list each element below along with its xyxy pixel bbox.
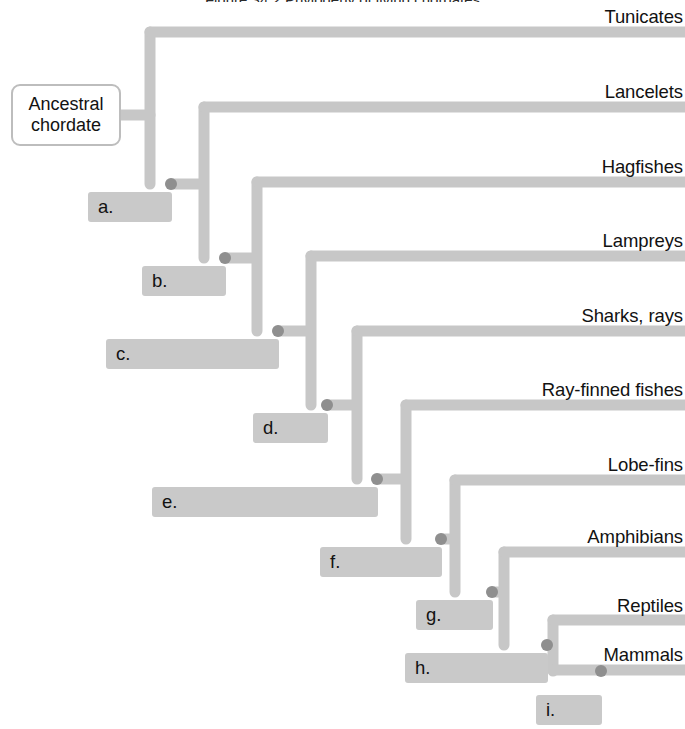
node-dot-i xyxy=(595,665,607,677)
tip-label-hagfishes: Hagfishes xyxy=(602,158,683,177)
tip-label-tunicates: Tunicates xyxy=(604,8,683,27)
tip-label-amphibians: Amphibians xyxy=(587,528,683,547)
node-callout-label-h: h. xyxy=(415,659,430,678)
node-callout-a[interactable]: a. xyxy=(88,192,172,222)
node-callout-label-e: e. xyxy=(162,493,177,512)
node-callout-g[interactable]: g. xyxy=(416,600,493,630)
node-dot-a xyxy=(165,178,177,190)
node-callout-e[interactable]: e. xyxy=(152,487,378,517)
node-callout-label-b: b. xyxy=(152,272,167,291)
node-callout-d[interactable]: d. xyxy=(253,413,328,443)
node-dot-c xyxy=(272,325,284,337)
branch-spine-e xyxy=(377,405,406,539)
ancestral-chordate-line2: chordate xyxy=(31,115,101,136)
tip-label-ray-finned-fishes: Ray-finned fishes xyxy=(542,381,683,400)
tip-label-reptiles: Reptiles xyxy=(617,597,683,616)
ancestral-chordate-line1: Ancestral xyxy=(28,94,103,115)
node-dot-b xyxy=(219,252,231,264)
node-callout-label-a: a. xyxy=(98,198,113,217)
node-callout-i[interactable]: i. xyxy=(536,695,602,725)
tip-label-sharks-rays: Sharks, rays xyxy=(581,307,683,326)
tip-label-mammals: Mammals xyxy=(604,646,683,665)
node-callout-label-f: f. xyxy=(330,553,340,572)
node-callout-label-g: g. xyxy=(426,606,441,625)
node-callout-label-i: i. xyxy=(546,701,555,720)
node-callout-f[interactable]: f. xyxy=(320,547,442,577)
tip-label-lampreys: Lampreys xyxy=(603,232,683,251)
tip-label-lobe-fins: Lobe-fins xyxy=(608,456,683,475)
ancestral-chordate-box: Ancestral chordate xyxy=(11,84,121,146)
tip-label-lancelets: Lancelets xyxy=(605,83,683,102)
node-dot-e xyxy=(371,473,383,485)
phylogenetic-tree-figure: Figure 34.2 Phylogeny of living chordate… xyxy=(0,0,685,729)
node-dot-d xyxy=(321,399,333,411)
node-callout-c[interactable]: c. xyxy=(106,339,279,369)
node-dot-g xyxy=(486,586,498,598)
branch-spine-g xyxy=(492,552,504,645)
node-callout-label-c: c. xyxy=(116,345,130,364)
node-callout-label-d: d. xyxy=(263,419,278,438)
node-dot-f xyxy=(435,533,447,545)
node-callout-h[interactable]: h. xyxy=(405,653,548,683)
node-callout-b[interactable]: b. xyxy=(142,266,226,296)
node-dot-h xyxy=(541,639,553,651)
